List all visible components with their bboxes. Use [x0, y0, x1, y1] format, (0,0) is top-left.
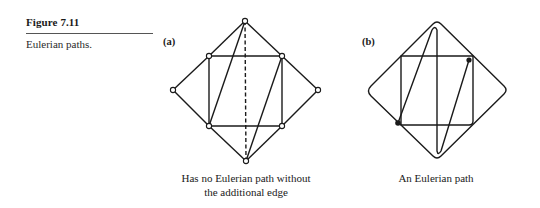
vertex-right [315, 87, 320, 92]
edge [209, 21, 245, 126]
graph-b [369, 22, 507, 158]
edge [209, 126, 246, 161]
path-zigzag [398, 28, 469, 154]
vertex-lower-right [279, 123, 284, 128]
panel-a-caption: Has no Eulerian path without the additio… [168, 171, 324, 199]
graph-a [170, 18, 320, 163]
edge [282, 90, 318, 126]
panel-a-caption-line2: the additional edge [168, 185, 324, 199]
panel-b-caption-line1: An Eulerian path [376, 171, 496, 185]
vertex-left [170, 87, 175, 92]
dashed-additional-edge [245, 21, 246, 161]
edge [173, 90, 209, 126]
path-end-dot [466, 57, 471, 62]
panel-b-caption: An Eulerian path [376, 171, 496, 185]
vertex-upper-right [279, 53, 284, 58]
vertex-lower-left [206, 123, 211, 128]
panel-a-caption-line1: Has no Eulerian path without [168, 171, 324, 185]
vertex-bottom [243, 158, 248, 163]
edge [245, 21, 282, 56]
path-start-dot [395, 120, 401, 126]
vertex-top [242, 18, 247, 23]
edge [282, 56, 318, 90]
vertex-upper-left [206, 53, 211, 58]
edge [246, 56, 282, 161]
edge [173, 56, 209, 90]
